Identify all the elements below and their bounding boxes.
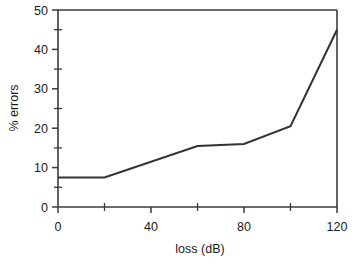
y-tick-label: 30 [34, 82, 48, 96]
y-tick-label: 20 [34, 122, 48, 136]
chart-figure: 50 40 30 20 10 0 0 40 80 120 loss (dB) %… [0, 0, 357, 267]
y-axis-title: % errors [7, 84, 21, 131]
y-tick-label: 10 [34, 161, 48, 175]
y-tick-label: 50 [34, 4, 48, 18]
y-tick-label: 0 [41, 201, 48, 215]
x-axis-title: loss (dB) [175, 242, 224, 256]
x-tick-label: 0 [55, 220, 62, 234]
y-tick-label: 40 [34, 43, 48, 57]
x-tick-label: 80 [237, 220, 251, 234]
line-chart-plot: 50 40 30 20 10 0 0 40 80 120 loss (dB) %… [0, 0, 357, 267]
y-axis-tick-labels: 50 40 30 20 10 0 [34, 4, 48, 215]
x-tick-label: 120 [327, 220, 348, 234]
x-tick-label: 40 [144, 220, 158, 234]
data-series-line [58, 30, 337, 178]
x-axis-tick-labels: 0 40 80 120 [55, 220, 348, 234]
